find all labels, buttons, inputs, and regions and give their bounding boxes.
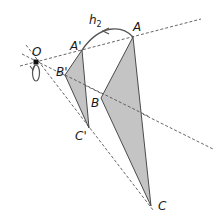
arc-arrow-icon [103, 28, 109, 34]
ray-o-a [20, 19, 201, 66]
dilation-diagram: O A B C A' B' C' h2 [0, 0, 223, 218]
label-h: h2 [89, 13, 102, 29]
label-b-prime: B' [56, 65, 68, 79]
label-h-subscript: 2 [97, 20, 102, 29]
loop-arrow-icon [30, 65, 35, 70]
label-c: C [158, 199, 167, 213]
label-a-prime: A' [69, 39, 82, 53]
triangle-abc [101, 37, 151, 206]
label-c-prime: C' [75, 129, 87, 143]
triangle-a-prime-b-prime-c-prime [65, 50, 89, 128]
center-point-o [34, 60, 39, 65]
label-b: B [91, 96, 99, 110]
label-h-main: h [89, 13, 97, 27]
label-a: A [132, 20, 141, 34]
dilation-arc [82, 29, 133, 50]
label-o: O [32, 45, 41, 59]
